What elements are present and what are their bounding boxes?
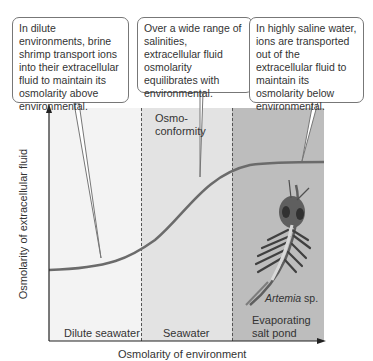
callout-dilute: In dilute environments, brine shrimp tra… [12,17,129,103]
species-label: Artemia sp. [265,292,318,305]
region-label-salt-pond: Evaporating salt pond [252,314,311,340]
region-label-dilute: Dilute seawater [64,327,140,340]
brine-shrimp-icon [246,180,310,305]
x-axis-label: Osmolarity of environment [118,348,246,361]
callout-saline: In highly saline water, ions are transpo… [249,17,364,103]
callout-osmoconformity: Over a wide range of salinities, extrace… [137,17,253,93]
region-label-seawater: Seawater [163,327,209,340]
y-axis-label: Osmolarity of extracellular fluid [17,142,29,307]
osmoconformity-label: Osmo- conformity [155,112,206,138]
x-axis-arrow-icon [317,338,326,344]
